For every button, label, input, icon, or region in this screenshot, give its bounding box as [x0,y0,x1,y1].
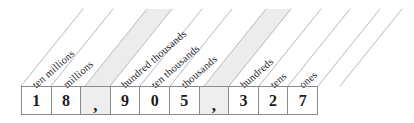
digit-value: 7 [299,92,307,110]
digit-cell-ten-millions[interactable]: 1 [22,87,52,114]
comma-glyph: , [93,100,97,112]
comma-glyph: , [212,100,216,112]
digit-cell-ten-thousands[interactable]: 0 [140,87,170,114]
digit-value: 8 [62,92,70,110]
digit-row: 1 8 , 9 0 5 , 3 2 7 [21,86,318,115]
digit-cell-hundred-thousands[interactable]: 9 [111,87,141,114]
digit-value: 2 [269,92,277,110]
digit-value: 3 [239,92,247,110]
separator-cell-thousands-comma[interactable]: , [200,87,230,114]
digit-cell-hundreds[interactable]: 3 [229,87,259,114]
digit-cell-millions[interactable]: 8 [52,87,82,114]
digit-value: 0 [151,92,159,110]
digit-value: 1 [32,92,40,110]
place-value-chart: ten millions millions hundred thousands … [0,0,414,123]
digit-value: 9 [121,92,129,110]
digit-cell-ones[interactable]: 7 [288,87,317,114]
digit-cell-thousands[interactable]: 5 [170,87,200,114]
separator-cell-millions-comma[interactable]: , [81,87,111,114]
diagonal-line-10 [288,9,350,86]
digit-value: 5 [180,92,188,110]
digit-cell-tens[interactable]: 2 [259,87,289,114]
